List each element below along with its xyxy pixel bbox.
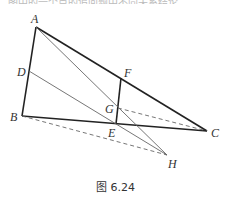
- figure-caption: 图 6.24: [0, 178, 231, 194]
- segment-DH: [29, 71, 167, 155]
- label-B: B: [10, 110, 18, 124]
- label-G: G: [105, 102, 114, 116]
- label-F: F: [123, 66, 132, 80]
- label-E: E: [107, 126, 116, 140]
- geometry-figure: A D B F G E C H: [0, 0, 231, 200]
- label-H: H: [167, 157, 178, 171]
- label-D: D: [16, 65, 26, 79]
- label-A: A: [30, 12, 39, 26]
- segment-AH: [36, 27, 167, 155]
- label-C: C: [211, 126, 220, 140]
- segment-FE: [116, 78, 121, 124]
